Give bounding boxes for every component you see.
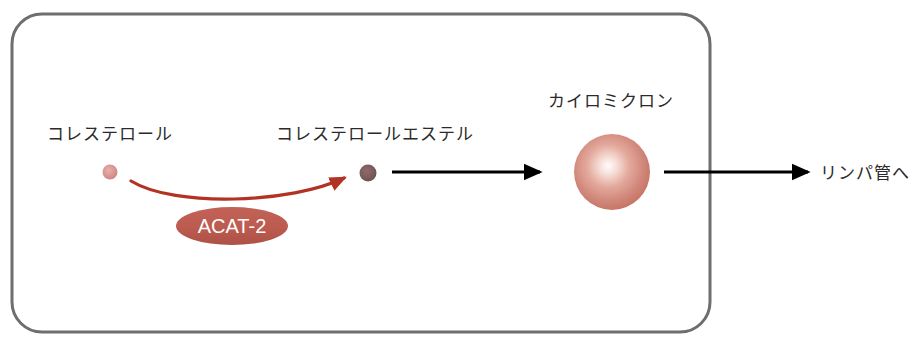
cholesterol-ester-particle [360,165,377,182]
cholesterol-particle [103,165,118,180]
to-lymph-vessel-label: リンパ管へ [820,163,910,183]
diagram-canvas: コレステロール コレステロールエステル カイロミクロン ACAT-2 リンパ管へ [0,0,921,343]
chylomicron-label: カイロミクロン [548,91,674,111]
acat-2-enzyme-label: ACAT-2 [198,215,267,237]
cholesterol-ester-label: コレステロールエステル [276,124,474,144]
cholesterol-transport-diagram: コレステロール コレステロールエステル カイロミクロン ACAT-2 リンパ管へ [0,0,921,343]
chylomicron-particle [574,134,650,210]
cholesterol-label: コレステロール [47,124,173,144]
